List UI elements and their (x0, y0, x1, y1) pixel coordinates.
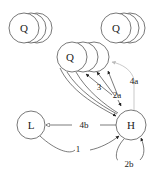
l-label: L (28, 119, 35, 131)
label-2b: 2b (125, 159, 135, 169)
q-stack-left: Q (9, 13, 52, 43)
node-l: L (17, 111, 45, 139)
q-stack-right: Q (101, 13, 145, 43)
q-left-label: Q (20, 22, 28, 34)
q-stack-center: Q (57, 42, 109, 72)
q-center-label: Q (66, 51, 74, 63)
h-label: H (127, 119, 135, 131)
edge-4a (112, 62, 134, 110)
edge-3c (76, 72, 118, 113)
label-1: 1 (76, 144, 81, 154)
state-diagram: Q Q Q L H (0, 0, 155, 176)
label-4a: 4a (130, 76, 139, 86)
edge-2b (116, 138, 144, 160)
edge-2a (118, 100, 121, 106)
label-3: 3 (97, 82, 102, 92)
label-2a: 2a (113, 90, 122, 100)
edges-q-to-h (60, 68, 118, 116)
node-h: H (116, 110, 146, 140)
label-4b: 4b (80, 120, 90, 130)
q-right-label: Q (112, 22, 120, 34)
